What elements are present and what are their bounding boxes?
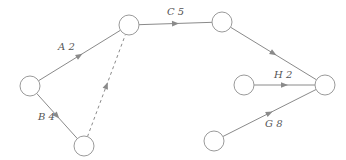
labels-layer: A 2B 4C 5H 2G 8 — [37, 6, 292, 129]
edge-label-b: B 4 — [37, 111, 55, 122]
node-n5 — [234, 75, 254, 95]
edge-label-a: A 2 — [57, 41, 75, 52]
arrowhead-icon — [172, 21, 179, 27]
node-n7 — [204, 131, 224, 151]
network-diagram: A 2B 4C 5H 2G 8 — [0, 0, 346, 160]
edge-label-h: H 2 — [273, 69, 292, 80]
arrowhead-icon — [75, 54, 82, 60]
node-n3 — [212, 12, 232, 32]
node-n4 — [74, 136, 94, 156]
arrowhead-icon — [269, 49, 276, 55]
edge-label-g: G 8 — [265, 118, 283, 129]
arrowhead-icon — [265, 111, 273, 117]
nodes-layer — [20, 12, 335, 156]
edge-label-c: C 5 — [167, 6, 184, 17]
arrowhead-icon — [103, 82, 108, 90]
diagram-canvas: A 2B 4C 5H 2G 8 — [0, 0, 346, 160]
arrowhead-icon — [281, 82, 288, 88]
node-n2 — [119, 15, 139, 35]
node-n6 — [315, 75, 335, 95]
node-n1 — [20, 76, 40, 96]
